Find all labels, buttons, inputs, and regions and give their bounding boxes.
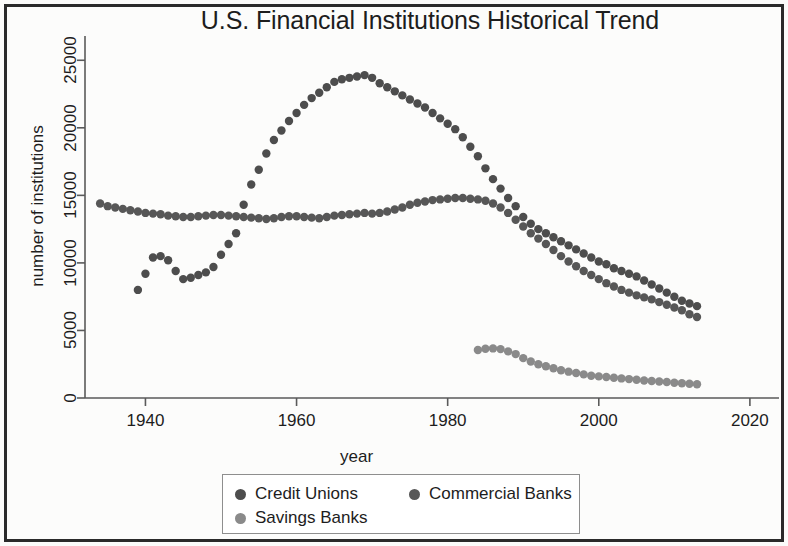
data-point (406, 95, 414, 103)
data-point (693, 313, 701, 321)
data-point (557, 237, 565, 245)
data-point (640, 293, 648, 301)
data-point (519, 354, 527, 362)
data-point (527, 357, 535, 365)
x-tick-label: 2000 (569, 411, 629, 431)
data-point (670, 292, 678, 300)
data-point (383, 83, 391, 91)
data-point (587, 372, 595, 380)
data-point (481, 197, 489, 205)
legend-marker-icon (235, 489, 246, 500)
x-tick-label: 1980 (418, 411, 478, 431)
data-point (459, 194, 467, 202)
data-point (292, 212, 300, 220)
data-point (413, 199, 421, 207)
data-point (579, 370, 587, 378)
data-point (527, 229, 535, 237)
data-point (534, 234, 542, 242)
chart-legend: Credit Unions Commercial Banks Savings B… (222, 474, 580, 534)
data-point (171, 212, 179, 220)
data-point (428, 109, 436, 117)
data-point (519, 213, 527, 221)
data-point (572, 245, 580, 253)
data-point (504, 347, 512, 355)
data-point (587, 271, 595, 279)
data-point (292, 109, 300, 117)
data-point (345, 210, 353, 218)
x-tick-label: 2020 (720, 411, 780, 431)
data-point (451, 194, 459, 202)
data-point (564, 241, 572, 249)
legend-item-credit-unions[interactable]: Credit Unions (235, 484, 358, 504)
data-point (647, 377, 655, 385)
data-point (595, 372, 603, 380)
data-point (610, 282, 618, 290)
data-point (194, 212, 202, 220)
data-point (625, 375, 633, 383)
data-point (149, 209, 157, 217)
data-point (338, 75, 346, 83)
data-point (406, 201, 414, 209)
legend-item-savings-banks[interactable]: Savings Banks (235, 508, 367, 528)
data-point (534, 360, 542, 368)
data-point (179, 213, 187, 221)
chart-title: U.S. Financial Institutions Historical T… (100, 6, 760, 35)
data-point (270, 136, 278, 144)
data-point (617, 286, 625, 294)
data-point (678, 379, 686, 387)
data-point (655, 377, 663, 385)
data-point (572, 369, 580, 377)
legend-label: Savings Banks (255, 508, 367, 528)
data-point (511, 350, 519, 358)
data-point (179, 275, 187, 283)
data-point (678, 297, 686, 305)
data-point (270, 214, 278, 222)
data-point (436, 195, 444, 203)
data-point (549, 233, 557, 241)
data-point (171, 267, 179, 275)
legend-item-commercial-banks[interactable]: Commercial Banks (409, 484, 572, 504)
data-point (360, 209, 368, 217)
data-point (285, 117, 293, 125)
data-point (678, 306, 686, 314)
data-point (632, 272, 640, 280)
data-point (443, 120, 451, 128)
data-point (564, 257, 572, 265)
legend-marker-icon (235, 513, 246, 524)
y-axis-label: number of institutions (28, 106, 48, 306)
data-point (375, 209, 383, 217)
data-point (209, 211, 217, 219)
data-point (375, 79, 383, 87)
data-point (149, 253, 157, 261)
data-point (542, 362, 550, 370)
data-point (557, 252, 565, 260)
legend-marker-icon (409, 489, 420, 500)
data-point (632, 376, 640, 384)
data-point (466, 195, 474, 203)
data-point (330, 211, 338, 219)
data-point (421, 197, 429, 205)
data-point (330, 78, 338, 86)
data-point (239, 201, 247, 209)
data-point (345, 74, 353, 82)
data-point (579, 249, 587, 257)
data-point (610, 374, 618, 382)
data-point (239, 213, 247, 221)
data-point (496, 203, 504, 211)
data-point (474, 195, 482, 203)
data-point (640, 276, 648, 284)
series-savings-banks (474, 344, 702, 388)
data-point (693, 302, 701, 310)
data-point (398, 203, 406, 211)
data-point (617, 267, 625, 275)
chart-canvas (0, 0, 788, 546)
data-point (504, 209, 512, 217)
data-point (496, 345, 504, 353)
data-point (300, 101, 308, 109)
data-point (277, 126, 285, 134)
data-point (474, 152, 482, 160)
data-point (595, 275, 603, 283)
data-point (610, 264, 618, 272)
data-point (663, 301, 671, 309)
data-point (602, 373, 610, 381)
